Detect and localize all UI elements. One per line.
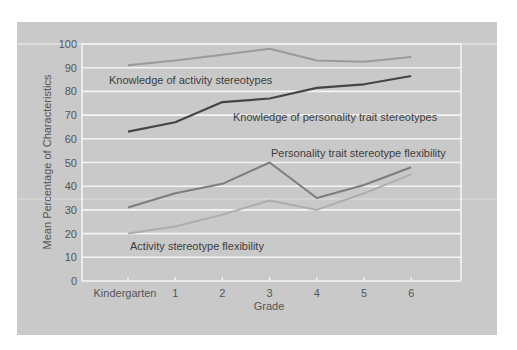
y-tick-label: 40 [65, 180, 77, 192]
x-tick-label: 3 [267, 287, 273, 299]
series-line-knowledge-of-activity-stereotypes [128, 49, 411, 66]
x-tick-label: 4 [314, 287, 320, 299]
label-knowledge-personality: Knowledge of personality trait stereotyp… [233, 111, 438, 123]
y-tick-label: 10 [65, 251, 77, 263]
y-tick-label: 50 [65, 157, 77, 169]
y-axis-title: Mean Percentage of Characteristics [41, 74, 53, 249]
line-chart: 0102030405060708090100 Kindergarten12345… [0, 0, 517, 350]
y-tick-label: 30 [65, 204, 77, 216]
y-tick-label: 100 [59, 38, 77, 50]
y-tick-label: 70 [65, 109, 77, 121]
x-tick-label: 5 [361, 287, 367, 299]
y-tick-label: 60 [65, 133, 77, 145]
x-tick-label: Kindergarten [94, 287, 157, 299]
label-knowledge-activity: Knowledge of activity stereotypes [109, 74, 273, 86]
x-tick-label: 6 [408, 287, 414, 299]
x-tick-label: 2 [219, 287, 225, 299]
y-tick-label: 90 [65, 62, 77, 74]
label-personality-flexibility: Personality trait stereotype flexibility [271, 147, 446, 159]
y-axis-ticks: 0102030405060708090100 [59, 38, 77, 287]
label-activity-flexibility: Activity stereotype flexibility [130, 240, 264, 252]
y-tick-label: 80 [65, 85, 77, 97]
y-tick-label: 20 [65, 228, 77, 240]
x-axis-title: Grade [254, 300, 285, 312]
x-tick-label: 1 [172, 287, 178, 299]
y-tick-label: 0 [71, 275, 77, 287]
